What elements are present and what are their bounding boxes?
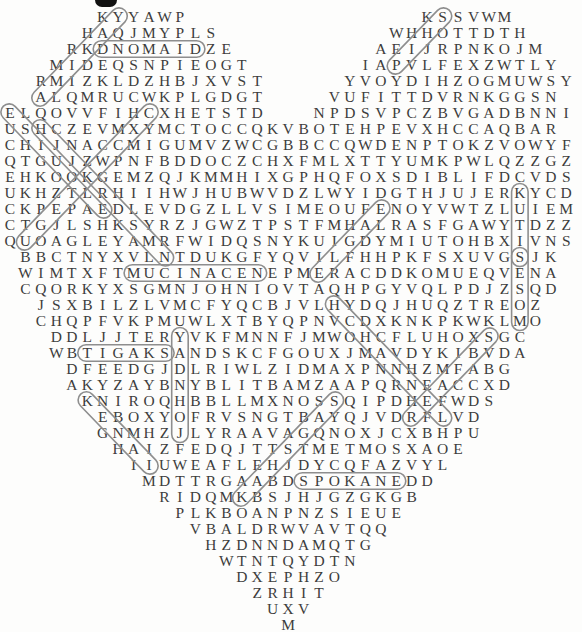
grid-letter[interactable]: X [79, 265, 95, 281]
grid-letter[interactable]: W [249, 185, 265, 201]
grid-letter[interactable]: Y [419, 201, 435, 217]
grid-letter[interactable]: J [187, 185, 203, 201]
grid-letter[interactable]: Q [110, 57, 126, 73]
grid-letter[interactable]: S [296, 473, 312, 489]
grid-letter[interactable]: W [95, 153, 111, 169]
grid-letter[interactable]: A [280, 377, 296, 393]
grid-letter[interactable]: O [172, 409, 188, 425]
grid-letter[interactable]: S [481, 329, 497, 345]
grid-letter[interactable]: Q [110, 25, 126, 41]
grid-letter[interactable]: B [296, 137, 312, 153]
grid-letter[interactable]: L [435, 457, 451, 473]
grid-letter[interactable]: R [33, 73, 49, 89]
grid-letter[interactable]: J [296, 329, 312, 345]
grid-letter[interactable]: A [357, 217, 373, 233]
grid-letter[interactable]: J [172, 425, 188, 441]
grid-letter[interactable]: R [450, 89, 466, 105]
grid-letter[interactable]: H [419, 185, 435, 201]
grid-letter[interactable]: A [435, 377, 451, 393]
grid-letter[interactable]: D [466, 409, 482, 425]
grid-letter[interactable]: Y [126, 9, 142, 25]
grid-letter[interactable]: A [249, 505, 265, 521]
grid-letter[interactable]: H [265, 457, 281, 473]
grid-letter[interactable]: Q [2, 153, 18, 169]
grid-letter[interactable]: A [373, 457, 389, 473]
grid-letter[interactable]: P [157, 57, 173, 73]
grid-letter[interactable]: O [33, 233, 49, 249]
grid-letter[interactable]: L [48, 89, 64, 105]
grid-letter[interactable]: Q [280, 553, 296, 569]
grid-letter[interactable]: N [95, 393, 111, 409]
grid-letter[interactable]: Y [419, 345, 435, 361]
grid-letter[interactable]: F [265, 345, 281, 361]
grid-letter[interactable]: H [172, 105, 188, 121]
grid-letter[interactable]: F [357, 89, 373, 105]
grid-letter[interactable]: S [326, 393, 342, 409]
grid-letter[interactable]: P [172, 505, 188, 521]
grid-letter[interactable]: U [265, 601, 281, 617]
grid-letter[interactable]: K [373, 489, 389, 505]
grid-letter[interactable]: H [435, 425, 451, 441]
grid-letter[interactable]: W [17, 265, 33, 281]
grid-letter[interactable]: T [234, 553, 250, 569]
grid-letter[interactable]: I [172, 265, 188, 281]
grid-letter[interactable]: J [342, 345, 358, 361]
grid-letter[interactable]: F [481, 169, 497, 185]
grid-letter[interactable]: T [296, 441, 312, 457]
grid-letter[interactable]: I [558, 105, 574, 121]
grid-letter[interactable]: Q [481, 265, 497, 281]
grid-letter[interactable]: T [265, 441, 281, 457]
grid-letter[interactable]: E [2, 105, 18, 121]
grid-letter[interactable]: A [342, 377, 358, 393]
grid-letter[interactable]: L [311, 297, 327, 313]
grid-letter[interactable]: Y [527, 185, 543, 201]
grid-letter[interactable]: K [450, 313, 466, 329]
grid-letter[interactable]: B [64, 345, 80, 361]
grid-letter[interactable]: H [203, 185, 219, 201]
grid-letter[interactable]: E [218, 41, 234, 57]
grid-letter[interactable]: H [311, 169, 327, 185]
grid-letter[interactable]: Y [265, 313, 281, 329]
grid-letter[interactable]: I [280, 361, 296, 377]
grid-letter[interactable]: R [203, 473, 219, 489]
grid-letter[interactable]: Z [296, 185, 312, 201]
grid-letter[interactable]: G [234, 89, 250, 105]
grid-letter[interactable]: D [249, 521, 265, 537]
grid-letter[interactable]: L [187, 505, 203, 521]
grid-letter[interactable]: A [342, 265, 358, 281]
grid-letter[interactable]: S [280, 441, 296, 457]
grid-letter[interactable]: E [512, 265, 528, 281]
grid-letter[interactable]: K [79, 41, 95, 57]
grid-letter[interactable]: H [157, 73, 173, 89]
grid-letter[interactable]: E [265, 569, 281, 585]
grid-letter[interactable]: T [249, 89, 265, 105]
grid-letter[interactable]: H [141, 425, 157, 441]
grid-letter[interactable]: F [79, 361, 95, 377]
grid-letter[interactable]: V [527, 233, 543, 249]
grid-letter[interactable]: E [187, 57, 203, 73]
grid-letter[interactable]: N [187, 265, 203, 281]
grid-letter[interactable]: U [311, 345, 327, 361]
grid-letter[interactable]: E [141, 201, 157, 217]
grid-letter[interactable]: S [543, 73, 559, 89]
grid-letter[interactable]: M [326, 217, 342, 233]
grid-letter[interactable]: T [326, 553, 342, 569]
grid-letter[interactable]: V [326, 89, 342, 105]
grid-letter[interactable]: W [280, 521, 296, 537]
grid-letter[interactable]: T [249, 377, 265, 393]
grid-letter[interactable]: G [496, 249, 512, 265]
grid-letter[interactable]: D [48, 329, 64, 345]
grid-letter[interactable]: U [466, 249, 482, 265]
grid-letter[interactable]: D [357, 313, 373, 329]
grid-letter[interactable]: P [419, 137, 435, 153]
grid-letter[interactable]: R [157, 489, 173, 505]
grid-letter[interactable]: E [543, 201, 559, 217]
grid-letter[interactable]: D [203, 441, 219, 457]
grid-letter[interactable]: M [311, 361, 327, 377]
grid-letter[interactable]: A [373, 345, 389, 361]
grid-letter[interactable]: Q [357, 521, 373, 537]
grid-letter[interactable]: T [249, 73, 265, 89]
grid-letter[interactable]: I [95, 297, 111, 313]
grid-letter[interactable]: C [110, 137, 126, 153]
grid-letter[interactable]: Z [110, 377, 126, 393]
